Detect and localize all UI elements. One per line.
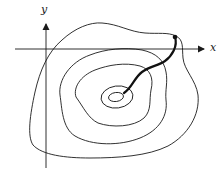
contour-level-5: [108, 91, 124, 102]
start-point-dot: [173, 35, 178, 40]
contour-level-1: [30, 23, 199, 158]
contour-diagram: [0, 0, 221, 171]
descent-path: [124, 37, 176, 93]
y-axis-label: y: [41, 4, 47, 15]
x-axis-label: x: [210, 42, 216, 53]
